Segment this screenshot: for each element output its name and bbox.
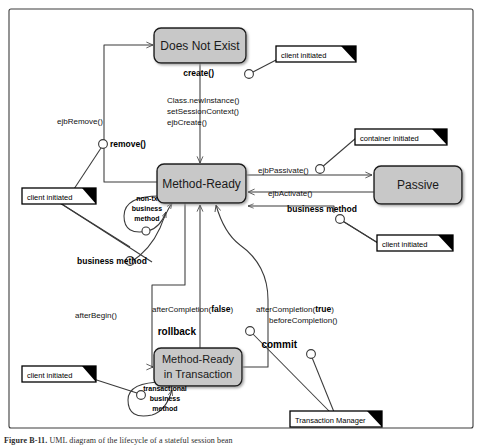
label-ejbactivate: ejbActivate() <box>268 189 313 198</box>
label-ac-false-tail: ) <box>231 305 234 314</box>
note-client-initiated-create[interactable]: client initiated <box>276 46 356 62</box>
anchor-create <box>245 70 254 79</box>
note-client-initiated-business-method[interactable]: client initiated <box>377 235 453 251</box>
loop-tx-line2: business <box>150 395 180 402</box>
figure-caption: Figure B-11. UML diagram of the lifecycl… <box>4 436 233 445</box>
loop-tx-line1: transactional <box>143 385 187 392</box>
note-client-initiated-create-label: client initiated <box>281 51 326 60</box>
state-passive-label: Passive <box>397 178 439 192</box>
state-method-ready[interactable]: Method-Ready <box>157 164 246 203</box>
caption-text: UML diagram of the lifecycle of a statef… <box>49 436 232 445</box>
label-ac-true-plain: afterCompletion( <box>256 305 315 314</box>
label-ac-false-bold: false <box>211 304 231 314</box>
state-passive[interactable]: Passive <box>374 166 462 204</box>
loop-tx-line3: method <box>152 405 177 412</box>
caption-prefix: Figure <box>4 436 27 445</box>
note-client-initiated-business-method-label: client initiated <box>382 240 427 249</box>
label-aftercompletion-true: afterCompletion(true) <box>256 304 334 314</box>
label-class-newinstance: Class.newInstance() <box>167 96 240 105</box>
anchor-remove <box>99 140 108 149</box>
label-ejbpassivate: ejbPassivate() <box>258 166 309 175</box>
anchor-ejbpassivate <box>316 165 325 174</box>
label-remove: remove() <box>110 139 146 149</box>
loop-non-tx-line3: method <box>134 215 159 222</box>
label-business-method-left: business method <box>77 256 147 266</box>
state-mrit-label-line1: Method-Ready <box>162 353 235 365</box>
label-commit: commit <box>261 339 297 350</box>
note-transaction-manager-label: Transaction Manager <box>295 416 366 425</box>
note-client-initiated-transactional-label: client initiated <box>27 371 72 380</box>
state-does-not-exist[interactable]: Does Not Exist <box>154 28 246 63</box>
caption-number: B-11. <box>29 436 47 445</box>
label-ejbcreate: ejbCreate() <box>167 118 207 127</box>
label-ac-false-plain: afterCompletion( <box>152 305 211 314</box>
label-rollback: rollback <box>158 326 197 337</box>
label-setsessioncontext: setSessionContext() <box>167 107 239 116</box>
anchor-rollback <box>246 327 255 336</box>
note-client-initiated-remove-label: client initiated <box>27 193 72 202</box>
state-method-ready-label: Method-Ready <box>162 177 241 191</box>
loop-non-tx-line2: business <box>132 205 162 212</box>
state-does-not-exist-label: Does Not Exist <box>160 39 240 53</box>
figure-container: Does Not Exist Method-Ready Passive Meth… <box>0 0 482 448</box>
note-client-initiated-remove[interactable]: client initiated <box>22 188 96 204</box>
note-container-initiated-passivate[interactable]: container initiated <box>355 129 447 145</box>
label-ac-true-bold: true <box>315 304 331 314</box>
label-afterbegin: afterBegin() <box>75 311 117 320</box>
label-beforecompletion: beforeCompletion() <box>269 316 338 325</box>
anchor-business-method-right <box>336 215 345 224</box>
note-transaction-manager[interactable]: Transaction Manager <box>290 411 382 427</box>
loop-non-tx-line1: non-tx <box>136 195 157 202</box>
state-diagram: Does Not Exist Method-Ready Passive Meth… <box>0 0 482 448</box>
note-container-initiated-label: container initiated <box>360 134 419 143</box>
state-mrit-label-line2: in Transaction <box>164 368 232 380</box>
label-business-method-right: business method <box>287 204 357 214</box>
label-aftercompletion-false: afterCompletion(false) <box>152 304 234 314</box>
anchor-non-tx-loop <box>142 227 150 235</box>
note-client-initiated-transactional[interactable]: client initiated <box>22 366 96 382</box>
label-create: create() <box>183 68 214 78</box>
label-ac-true-tail: ) <box>331 305 334 314</box>
anchor-commit <box>307 350 316 359</box>
label-ejbremove: ejbRemove() <box>57 117 103 126</box>
state-method-ready-in-transaction[interactable]: Method-Ready in Transaction <box>154 348 242 386</box>
